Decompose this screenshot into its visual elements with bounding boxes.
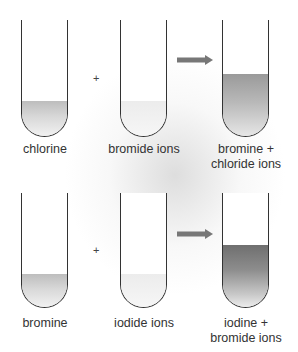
liquid-iodide-ions bbox=[121, 274, 166, 307]
yields-arrow-icon bbox=[177, 229, 213, 239]
yields-arrow-icon bbox=[177, 55, 213, 65]
test-tube-iodide-ions bbox=[120, 193, 167, 308]
test-tube-bromine bbox=[21, 193, 68, 308]
label-chlorine: chlorine bbox=[9, 142, 81, 157]
test-tube-bromine-chloride bbox=[222, 20, 269, 137]
label-bromide-ions: bromide ions bbox=[104, 142, 184, 157]
label-product-line2: chloride ions bbox=[205, 157, 287, 172]
test-tube-iodine-bromide bbox=[222, 193, 269, 308]
liquid-chlorine bbox=[22, 101, 67, 136]
liquid-bromide-ions bbox=[121, 101, 166, 136]
label-product-line2: bromide ions bbox=[205, 331, 287, 346]
label-product-line1: bromine + bbox=[205, 142, 287, 157]
label-iodide-ions: iodide ions bbox=[104, 316, 184, 331]
liquid-bromine bbox=[22, 274, 67, 307]
test-tube-bromide-ions bbox=[120, 20, 167, 137]
liquid-iodine-bromide bbox=[223, 245, 268, 307]
liquid-bromine-chloride bbox=[223, 74, 268, 136]
plus-sign: + bbox=[93, 245, 99, 256]
plus-sign: + bbox=[93, 73, 99, 84]
label-product-line1: iodine + bbox=[205, 316, 287, 331]
test-tube-chlorine bbox=[21, 20, 68, 137]
label-bromine: bromine bbox=[9, 316, 81, 331]
